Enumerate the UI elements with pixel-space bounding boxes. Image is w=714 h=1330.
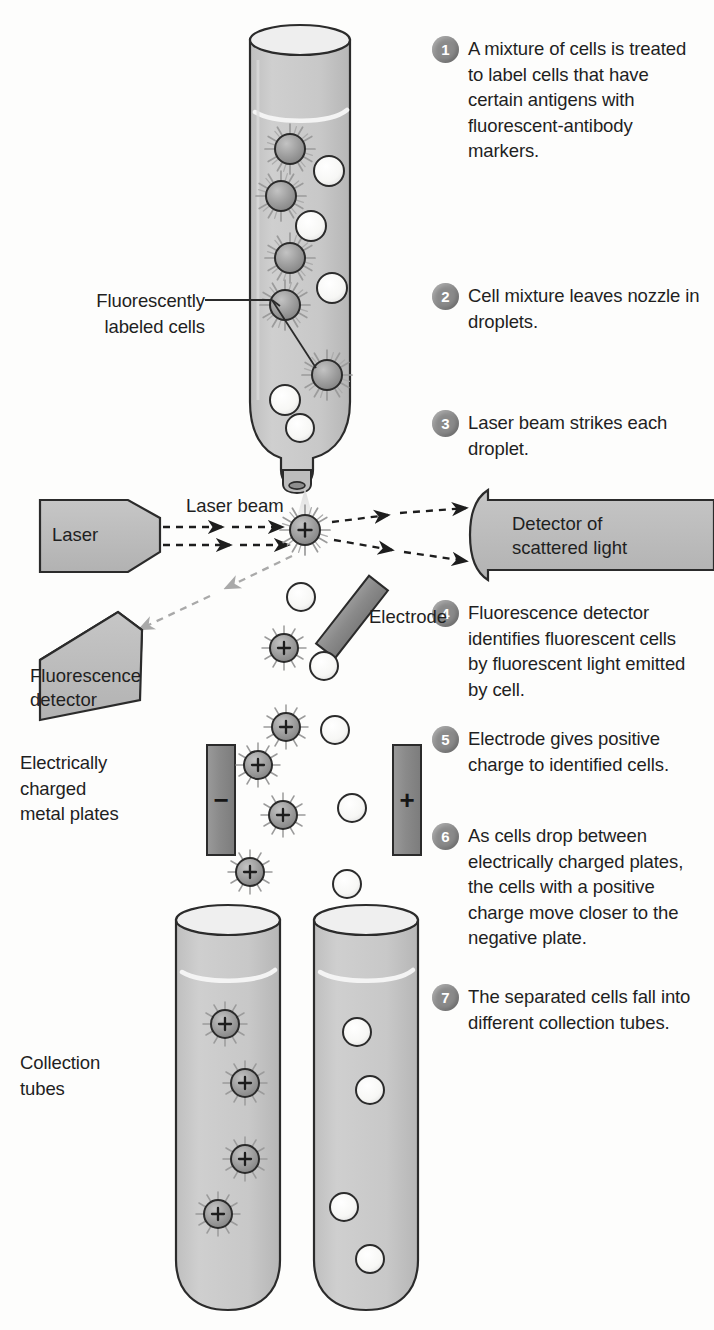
step-6-badge: 6 — [432, 823, 459, 850]
step-6-text: As cells drop between electrically charg… — [468, 823, 700, 951]
collection-tubes-line2: tubes — [20, 1076, 200, 1102]
laser-struck-droplet — [280, 505, 330, 555]
scattered-light-arrows — [332, 508, 466, 561]
charged-plates-label: Electrically charged metal plates — [20, 750, 200, 827]
step-4-text: Fluorescence detector identifies fluores… — [468, 600, 700, 702]
fluorescently-labeled-cells-line1: Fluorescently — [20, 288, 205, 314]
fluorescently-labeled-cells-label: Fluorescently labeled cells — [20, 288, 205, 339]
step-1-badge: 1 — [432, 36, 459, 63]
electrode-label: Electrode — [369, 605, 447, 629]
step-7: 7 The separated cells fall into differen… — [432, 984, 700, 1035]
step-7-badge: 7 — [432, 984, 459, 1011]
collection-tubes-line1: Collection — [20, 1050, 200, 1076]
step-2: 2 Cell mixture leaves nozzle in droplets… — [432, 283, 700, 334]
step-5: 5 Electrode gives positive charge to ide… — [432, 726, 700, 777]
step-1-text: A mixture of cells is treated to label c… — [468, 36, 700, 164]
step-1: 1 A mixture of cells is treated to label… — [432, 36, 700, 164]
step-6: 6 As cells drop between electrically cha… — [432, 823, 700, 951]
step-5-text: Electrode gives positive charge to ident… — [468, 726, 700, 777]
fluorescence-detector-line2: detector — [30, 688, 141, 712]
step-4: 4 Fluorescence detector identifies fluor… — [432, 600, 700, 702]
step-2-badge: 2 — [432, 283, 459, 310]
charged-plates-line3: metal plates — [20, 801, 200, 827]
fluorescence-detector-line1: Fluorescence — [30, 664, 141, 688]
step-3-badge: 3 — [432, 410, 459, 437]
collection-tube-left — [176, 905, 280, 1310]
positive-plate-sign: + — [393, 786, 421, 814]
fluorescently-labeled-cells-line2: labeled cells — [20, 314, 205, 340]
stream-charged-cells — [228, 626, 308, 894]
step-5-badge: 5 — [432, 726, 459, 753]
charged-plates-line1: Electrically — [20, 750, 200, 776]
collection-tubes-label: Collection tubes — [20, 1050, 200, 1101]
laser-beam-arrows — [163, 527, 288, 545]
step-2-text: Cell mixture leaves nozzle in droplets. — [468, 283, 700, 334]
fluorescence-detector-label: Fluorescence detector — [30, 664, 141, 712]
step-3: 3 Laser beam strikes each droplet. — [432, 410, 700, 461]
negative-plate-sign: − — [207, 786, 235, 814]
step-3-text: Laser beam strikes each droplet. — [468, 410, 700, 461]
detector-scattered-line2: scattered light — [512, 536, 627, 560]
fluorescent-emission-arrow — [140, 556, 292, 629]
laser-label: Laser — [52, 523, 98, 547]
facs-diagram-canvas: 1 A mixture of cells is treated to label… — [0, 0, 714, 1330]
scattered-light-detector-label: Detector of scattered light — [512, 512, 627, 560]
detector-scattered-line1: Detector of — [512, 512, 627, 536]
laser-beam-label: Laser beam — [186, 494, 284, 518]
step-7-text: The separated cells fall into different … — [468, 984, 700, 1035]
charged-plates-line2: charged — [20, 776, 200, 802]
